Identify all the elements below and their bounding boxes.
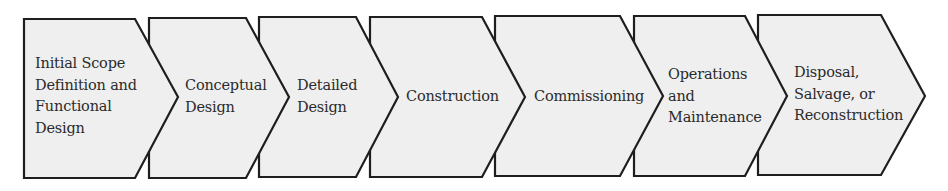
stage-5-line-1: Commissioning [534,86,644,108]
stage-4-label: Construction [406,86,499,108]
stage-4-line-1: Construction [406,86,499,108]
stage-6-label: Operations and Maintenance [668,64,762,129]
stage-7-label: Disposal, Salvage, or Reconstruction [794,62,903,127]
stage-3-line-1: Detailed [297,75,357,97]
stage-3-label: Detailed Design [297,75,357,118]
project-lifecycle-diagram: Initial Scope Definition and Functional … [0,0,948,191]
stage-1-line-2: Definition and [35,75,137,97]
stage-5-label: Commissioning [534,86,644,108]
stage-6-line-3: Maintenance [668,107,762,129]
stage-1-label: Initial Scope Definition and Functional … [35,53,137,139]
stage-2-line-1: Conceptual [185,75,267,97]
stage-6-line-1: Operations [668,64,762,86]
stage-7-line-1: Disposal, [794,62,903,84]
stage-7-line-2: Salvage, or [794,84,903,106]
stage-2-label: Conceptual Design [185,75,267,118]
stage-1-line-4: Design [35,118,137,140]
stage-2-line-2: Design [185,97,267,119]
stage-7-line-3: Reconstruction [794,105,903,127]
stage-3-line-2: Design [297,97,357,119]
stage-6-line-2: and [668,86,762,108]
stage-1-line-3: Functional [35,96,137,118]
stage-1-line-1: Initial Scope [35,53,137,75]
